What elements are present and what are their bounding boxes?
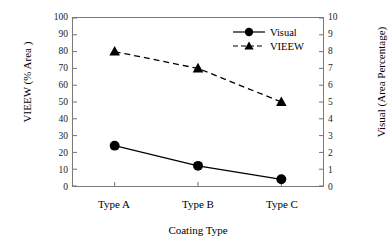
data-point-visual-2 <box>276 174 286 184</box>
right-tick-label: 0 <box>328 182 352 192</box>
series-line-vieew <box>115 52 282 102</box>
x-category-label-2: Type C <box>266 198 298 210</box>
x-axis-title: Coating Type <box>72 224 324 236</box>
triangle-marker-icon <box>232 39 266 53</box>
left-tick-label: 100 <box>44 12 68 22</box>
x-category-label-1: Type B <box>182 198 214 210</box>
right-tick-label: 1 <box>328 165 352 175</box>
right-tick-label: 6 <box>328 80 352 90</box>
left-tick-label: 20 <box>44 148 68 158</box>
right-tick-label: 7 <box>328 63 352 73</box>
data-point-visual-0 <box>110 141 120 151</box>
left-tick-label: 10 <box>44 165 68 175</box>
chart-legend: Visual VIEEW <box>232 25 324 53</box>
right-tick-label: 2 <box>328 148 352 158</box>
right-tick-label: 4 <box>328 114 352 124</box>
left-tick-label: 0 <box>44 182 68 192</box>
right-tick-label: 9 <box>328 29 352 39</box>
right-tick-label: 8 <box>328 46 352 56</box>
left-tick-label: 60 <box>44 80 68 90</box>
chart-figure: 0102030405060708090100 012345678910 VIEE… <box>0 0 389 248</box>
right-tick-label: 5 <box>328 97 352 107</box>
data-point-visual-1 <box>193 161 203 171</box>
legend-item-visual: Visual <box>232 25 324 39</box>
legend-label-vieew: VIEEW <box>266 41 304 52</box>
legend-label-visual: Visual <box>266 27 297 38</box>
right-tick-label: 3 <box>328 131 352 141</box>
left-tick-label: 90 <box>44 29 68 39</box>
data-point-vieew-0 <box>109 46 120 56</box>
x-axis-category-labels: Type AType BType C <box>72 198 324 214</box>
x-category-label-0: Type A <box>98 198 130 210</box>
legend-item-vieew: VIEEW <box>232 39 324 53</box>
left-tick-label: 70 <box>44 63 68 73</box>
left-axis-title: VIEEW (% Area ) <box>21 0 33 167</box>
right-axis-title: Visual (Area Percentage) <box>375 0 387 167</box>
left-tick-label: 40 <box>44 114 68 124</box>
left-tick-label: 50 <box>44 97 68 107</box>
right-tick-label: 10 <box>328 12 352 22</box>
left-tick-label: 30 <box>44 131 68 141</box>
right-axis-ticks: 012345678910 <box>328 17 354 187</box>
circle-marker-icon <box>232 25 266 39</box>
left-axis-ticks: 0102030405060708090100 <box>42 17 68 187</box>
data-point-vieew-2 <box>276 96 287 106</box>
left-tick-label: 80 <box>44 46 68 56</box>
